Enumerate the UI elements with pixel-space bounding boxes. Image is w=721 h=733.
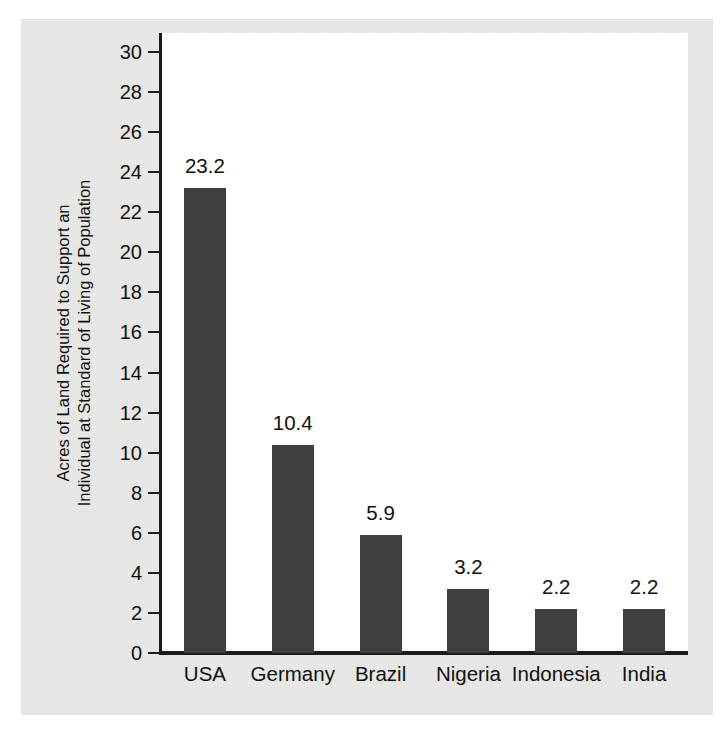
y-tick-mark	[148, 91, 160, 93]
y-tick-mark	[148, 452, 160, 454]
y-tick-mark	[148, 51, 160, 53]
x-axis-line	[159, 651, 688, 655]
y-tick-mark	[148, 251, 160, 253]
y-tick-mark	[148, 572, 160, 574]
bar-indonesia[interactable]	[535, 609, 577, 653]
y-tick-label: 24	[100, 162, 142, 182]
y-axis-tick-labels: 024681012141618202224262830	[92, 0, 142, 733]
bar-india[interactable]	[623, 609, 665, 653]
y-tick-label: 20	[100, 242, 142, 262]
y-tick-mark	[148, 331, 160, 333]
y-tick-label: 4	[100, 563, 142, 583]
y-tick-mark	[148, 532, 160, 534]
bar-value-label: 2.2	[506, 577, 606, 598]
y-tick-label: 22	[100, 202, 142, 222]
bar-value-label: 23.2	[155, 156, 255, 177]
y-tick-mark	[148, 652, 160, 654]
y-tick-label: 0	[100, 643, 142, 663]
bar-germany[interactable]	[272, 445, 314, 653]
y-axis-line	[159, 33, 162, 655]
y-tick-mark	[148, 211, 160, 213]
bar-value-label: 3.2	[418, 557, 518, 578]
bar-value-label: 10.4	[243, 413, 343, 434]
y-tick-mark	[148, 291, 160, 293]
x-tick-label-india: India	[584, 664, 704, 685]
y-tick-mark	[148, 492, 160, 494]
y-tick-label: 2	[100, 603, 142, 623]
y-axis-title: Acres of Land Required to Support an Ind…	[53, 83, 95, 603]
y-tick-label: 10	[100, 443, 142, 463]
y-axis-title-line-2: Individual at Standard of Living of Popu…	[74, 83, 95, 603]
bar-nigeria[interactable]	[447, 589, 489, 653]
y-axis-title-line-1: Acres of Land Required to Support an	[53, 83, 74, 603]
figure-root: 024681012141618202224262830 Acres of Lan…	[0, 0, 721, 733]
y-tick-mark	[148, 131, 160, 133]
y-tick-label: 12	[100, 403, 142, 423]
y-tick-mark	[148, 372, 160, 374]
y-tick-label: 30	[100, 42, 142, 62]
y-tick-label: 18	[100, 282, 142, 302]
y-tick-mark	[148, 612, 160, 614]
y-tick-label: 16	[100, 322, 142, 342]
y-tick-label: 8	[100, 483, 142, 503]
bar-brazil[interactable]	[360, 535, 402, 653]
y-tick-label: 28	[100, 82, 142, 102]
y-tick-label: 6	[100, 523, 142, 543]
y-tick-label: 26	[100, 122, 142, 142]
y-tick-label: 14	[100, 363, 142, 383]
bar-value-label: 2.2	[594, 577, 694, 598]
bar-usa[interactable]	[184, 188, 226, 653]
y-tick-mark	[148, 412, 160, 414]
bar-value-label: 5.9	[331, 503, 431, 524]
